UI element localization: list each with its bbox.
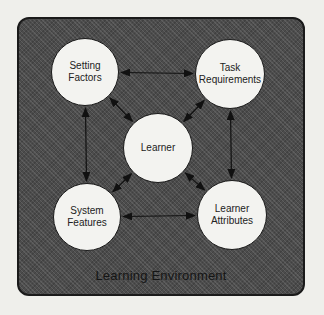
arrow-learner-task-requirements [184, 101, 204, 122]
node-learner: Learner [123, 113, 193, 183]
node-label-line: Task [199, 62, 261, 74]
node-task-requirements: Task Requirements [195, 39, 265, 109]
node-label-line: Factors [68, 72, 101, 84]
arrow-setting-factors-task-requirements [121, 72, 193, 73]
node-label-line: Features [67, 217, 106, 229]
node-label-line: Learner [211, 203, 253, 215]
node-learner-attributes: Learner Attributes [197, 180, 267, 250]
container-label: Learning Environment [17, 268, 305, 283]
node-label-line: System [67, 205, 106, 217]
learning-environment-diagram: Setting Factors Task Requirements Learne… [0, 0, 324, 315]
arrow-system-features-learner-attributes [123, 216, 195, 217]
node-label-line: Attributes [211, 215, 253, 227]
arrow-setting-factors-system-features [85, 108, 86, 181]
arrow-learner-learner-attributes [185, 173, 204, 190]
node-label-line: Setting [68, 60, 101, 72]
node-system-features: System Features [53, 183, 121, 251]
arrow-learner-setting-factors [110, 98, 132, 121]
arrow-task-requirements-learner-attributes [231, 111, 232, 178]
arrow-learner-system-features [113, 174, 132, 192]
node-label-line: Learner [141, 142, 175, 154]
node-label-line: Requirements [199, 74, 261, 86]
node-setting-factors: Setting Factors [51, 38, 119, 106]
